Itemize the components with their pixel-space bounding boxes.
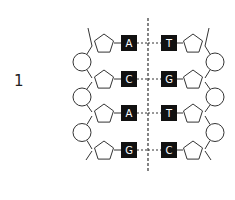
right-nucleotide-4: C [148, 141, 203, 159]
base-letter: C [166, 145, 173, 156]
sugar-pentagon-icon [184, 141, 203, 159]
base-letter: A [126, 38, 133, 49]
right-nucleotide-2: G [148, 70, 203, 88]
left-nucleotide-2: C [95, 70, 149, 88]
left-strand: ACAG [73, 28, 148, 160]
phosphate-circle-icon [73, 88, 91, 106]
sugar-pentagon-icon [95, 104, 114, 122]
left-nucleotide-3: A [95, 104, 149, 122]
phosphate-circle-icon [206, 88, 224, 106]
phosphate-circle-icon [73, 53, 91, 71]
right-nucleotide-1: T [148, 34, 203, 52]
base-letter: T [165, 108, 173, 119]
base-letter: A [126, 108, 133, 119]
phosphate-circle-icon [206, 53, 224, 71]
sugar-pentagon-icon [184, 104, 203, 122]
left-nucleotide-4: G [95, 141, 149, 159]
sugar-pentagon-icon [95, 141, 114, 159]
sugar-pentagon-icon [184, 70, 203, 88]
base-letter: G [125, 145, 133, 156]
base-letter: T [165, 38, 173, 49]
right-nucleotide-3: T [148, 104, 203, 122]
left-nucleotide-1: A [95, 34, 149, 52]
dna-diagram: ACAG TGTC [0, 0, 235, 200]
right-strand: TGTC [148, 28, 224, 160]
base-letter: G [165, 74, 173, 85]
sugar-pentagon-icon [95, 70, 114, 88]
phosphate-circle-icon [73, 124, 91, 142]
base-letter: C [126, 74, 133, 85]
sugar-pentagon-icon [184, 34, 203, 52]
sugar-pentagon-icon [95, 34, 114, 52]
phosphate-circle-icon [206, 124, 224, 142]
